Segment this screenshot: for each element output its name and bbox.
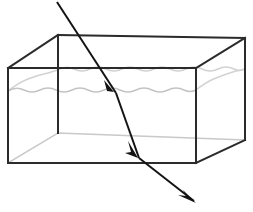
exit-ray-arrowhead-icon	[178, 190, 196, 203]
refraction-figure	[0, 0, 253, 212]
back-bottom-left-connector-edge	[8, 133, 58, 163]
back-bottom-edge	[58, 133, 245, 140]
water-surface-group	[8, 67, 245, 92]
water-surface-right-side-wave	[196, 69, 245, 90]
back-top-edge	[58, 35, 245, 38]
water-surface-front-wave	[8, 88, 196, 92]
top-left-connector-edge	[8, 35, 58, 68]
figure-canvas	[0, 0, 253, 212]
refracted-ray-line	[116, 93, 139, 158]
incident-ray-line	[57, 2, 116, 93]
top-right-connector-edge	[196, 38, 245, 68]
light-ray-group	[57, 2, 196, 203]
tank-back-edges	[8, 35, 245, 163]
bottom-right-connector-edge	[196, 140, 245, 163]
tank-front-edges	[8, 35, 245, 163]
